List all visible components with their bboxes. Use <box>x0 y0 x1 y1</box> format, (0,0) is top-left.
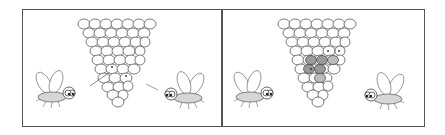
cell-marker <box>125 75 127 77</box>
fly-right <box>365 71 407 110</box>
proboscis-line <box>146 84 158 90</box>
panel-2 <box>231 19 407 110</box>
fly-left <box>231 69 273 108</box>
cell-marker <box>310 68 312 70</box>
cell-cluster <box>78 19 156 107</box>
panel-1 <box>33 19 207 109</box>
fly-right <box>165 70 207 109</box>
illustration-canvas <box>0 0 445 135</box>
cell-marker <box>111 66 113 68</box>
cell-marker <box>338 50 340 52</box>
cell-cluster <box>278 19 356 107</box>
cell-marker <box>327 50 329 52</box>
fly-left <box>33 69 75 108</box>
